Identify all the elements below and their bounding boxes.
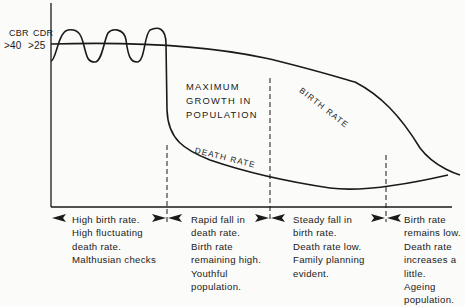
cdr-value: >25 [28, 40, 46, 51]
stage-1-description: High birth rate. High fluctuating death … [72, 213, 156, 267]
cbr-label: CBR [9, 28, 29, 38]
stage-2-description: Rapid fall in death rate. Birth rate rem… [191, 213, 261, 293]
stage-4-description: Birth rate remains low. Death rate incre… [404, 213, 461, 307]
cbr-value: >40 [4, 40, 22, 51]
stage-3-description: Steady fall in birth rate. Death rate lo… [293, 213, 365, 280]
cdr-label: CDR [33, 28, 53, 38]
max-growth-annotation: MAXIMUM GROWTH IN POPULATION [186, 80, 258, 122]
